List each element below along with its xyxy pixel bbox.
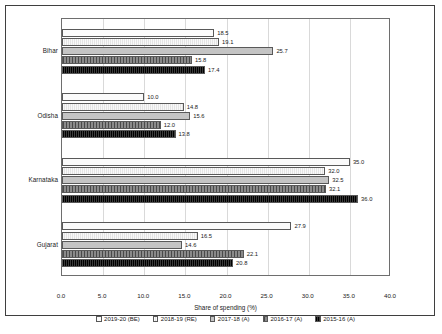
bar-row: 15.8 xyxy=(62,56,389,64)
bar-value-label: 22.1 xyxy=(244,251,258,257)
legend-label: 2019-20 (BE) xyxy=(104,316,140,322)
bar-value-label: 32.5 xyxy=(329,177,343,183)
bar-row: 18.5 xyxy=(62,29,389,37)
bar-value-label: 10.0 xyxy=(144,94,158,100)
bar-row: 17.4 xyxy=(62,66,389,74)
bar-karnataka-2017-18-a-[interactable] xyxy=(62,176,329,184)
bar-row: 14.8 xyxy=(62,103,389,111)
bar-value-label: 35.0 xyxy=(350,159,364,165)
bar-value-label: 15.6 xyxy=(190,113,204,119)
bar-odisha-2019-20-be-[interactable] xyxy=(62,93,144,101)
x-axis-title: Share of spending (%) xyxy=(61,304,390,311)
x-tick-label: 0.0 xyxy=(57,292,66,299)
bar-row: 19.1 xyxy=(62,38,389,46)
bar-group: Odisha10.014.815.612.013.8 xyxy=(62,84,389,149)
category-label-karnataka: Karnataka xyxy=(8,176,58,183)
bar-bihar-2018-19-re-[interactable] xyxy=(62,38,219,46)
legend-swatch-icon xyxy=(210,316,216,322)
plot-area: Bihar18.519.125.715.817.4Odisha10.014.81… xyxy=(61,18,390,276)
bar-row: 32.0 xyxy=(62,167,389,175)
legend-label: 2016-17 (A) xyxy=(271,316,303,322)
bar-gujarat-2017-18-a-[interactable] xyxy=(62,241,182,249)
bar-value-label: 19.1 xyxy=(219,39,233,45)
legend-item-2019-20-be-[interactable]: 2019-20 (BE) xyxy=(96,316,140,322)
bar-gujarat-2015-16-a-[interactable] xyxy=(62,259,233,267)
bar-odisha-2018-19-re-[interactable] xyxy=(62,103,184,111)
bar-value-label: 36.0 xyxy=(358,196,372,202)
legend-swatch-icon xyxy=(263,316,269,322)
bar-group: Gujarat27.916.514.622.120.8 xyxy=(62,213,389,278)
x-tick-label: 15.0 xyxy=(178,292,190,299)
bar-row: 35.0 xyxy=(62,158,389,166)
bar-value-label: 32.0 xyxy=(325,168,339,174)
bar-bihar-2019-20-be-[interactable] xyxy=(62,29,214,37)
legend-item-2018-19-re-[interactable]: 2018-19 (RE) xyxy=(153,316,197,322)
legend-label: 2017-18 (A) xyxy=(218,316,250,322)
bar-value-label: 25.7 xyxy=(273,48,287,54)
legend-label: 2018-19 (RE) xyxy=(161,316,197,322)
bar-row: 27.9 xyxy=(62,222,389,230)
category-label-odisha: Odisha xyxy=(8,112,58,119)
x-tick-label: 35.0 xyxy=(343,292,355,299)
bar-row: 10.0 xyxy=(62,93,389,101)
bar-row: 16.5 xyxy=(62,232,389,240)
legend-item-2015-16-a-[interactable]: 2015-16 (A) xyxy=(315,316,355,322)
x-tick-label: 40.0 xyxy=(384,292,396,299)
legend-item-2017-18-a-[interactable]: 2017-18 (A) xyxy=(210,316,250,322)
legend-swatch-icon xyxy=(153,316,159,322)
bar-odisha-2015-16-a-[interactable] xyxy=(62,130,176,138)
x-tick-label: 5.0 xyxy=(98,292,107,299)
bar-value-label: 17.4 xyxy=(205,67,219,73)
bar-value-label: 20.8 xyxy=(233,260,247,266)
bar-row: 14.6 xyxy=(62,241,389,249)
bar-row: 15.6 xyxy=(62,112,389,120)
legend-label: 2015-16 (A) xyxy=(323,316,355,322)
bar-value-label: 12.0 xyxy=(161,122,175,128)
bar-row: 22.1 xyxy=(62,250,389,258)
bar-group: Bihar18.519.125.715.817.4 xyxy=(62,19,389,84)
legend: 2019-20 (BE)2018-19 (RE)2017-18 (A)2016-… xyxy=(61,316,390,322)
bar-bihar-2016-17-a-[interactable] xyxy=(62,56,192,64)
bar-value-label: 16.5 xyxy=(198,233,212,239)
x-tick-label: 20.0 xyxy=(219,292,231,299)
bar-value-label: 27.9 xyxy=(291,223,305,229)
bar-gujarat-2019-20-be-[interactable] xyxy=(62,222,291,230)
bar-row: 25.7 xyxy=(62,47,389,55)
bar-odisha-2017-18-a-[interactable] xyxy=(62,112,190,120)
chart-frame: Bihar18.519.125.715.817.4Odisha10.014.81… xyxy=(5,5,435,316)
x-tick-label: 25.0 xyxy=(261,292,273,299)
category-label-bihar: Bihar xyxy=(8,47,58,54)
legend-item-2016-17-a-[interactable]: 2016-17 (A) xyxy=(263,316,303,322)
legend-swatch-icon xyxy=(315,316,321,322)
bar-karnataka-2019-20-be-[interactable] xyxy=(62,158,350,166)
bar-row: 20.8 xyxy=(62,259,389,267)
plot-wrapper: Bihar18.519.125.715.817.4Odisha10.014.81… xyxy=(61,18,390,276)
bar-row: 12.0 xyxy=(62,121,389,129)
bar-value-label: 15.8 xyxy=(192,57,206,63)
bar-value-label: 18.5 xyxy=(214,30,228,36)
bar-bihar-2017-18-a-[interactable] xyxy=(62,47,273,55)
category-label-gujarat: Gujarat xyxy=(8,241,58,248)
bar-row: 32.1 xyxy=(62,185,389,193)
bar-value-label: 14.6 xyxy=(182,242,196,248)
bar-group: Karnataka35.032.032.532.136.0 xyxy=(62,148,389,213)
bar-bihar-2015-16-a-[interactable] xyxy=(62,66,205,74)
legend-swatch-icon xyxy=(96,316,102,322)
bar-row: 13.8 xyxy=(62,130,389,138)
bar-odisha-2016-17-a-[interactable] xyxy=(62,121,161,129)
bar-row: 32.5 xyxy=(62,176,389,184)
bar-row: 36.0 xyxy=(62,195,389,203)
bar-karnataka-2016-17-a-[interactable] xyxy=(62,185,326,193)
bar-value-label: 32.1 xyxy=(326,186,340,192)
bar-karnataka-2018-19-re-[interactable] xyxy=(62,167,325,175)
bar-value-label: 14.8 xyxy=(184,104,198,110)
bar-value-label: 13.8 xyxy=(176,131,190,137)
x-tick-label: 10.0 xyxy=(137,292,149,299)
bar-karnataka-2015-16-a-[interactable] xyxy=(62,195,358,203)
bar-gujarat-2016-17-a-[interactable] xyxy=(62,250,244,258)
bar-gujarat-2018-19-re-[interactable] xyxy=(62,232,198,240)
x-tick-label: 30.0 xyxy=(302,292,314,299)
